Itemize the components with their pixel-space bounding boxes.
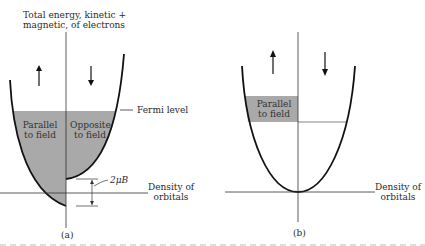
diagram-canvas (0, 0, 425, 246)
y-axis-label-a-line1: Total energy, kinetic + (23, 10, 126, 20)
parallel-label-b-line1: Parallel (255, 99, 293, 109)
opposite-label-a-line2: to field (70, 130, 110, 140)
splitting-label: 2μB (110, 175, 128, 185)
y-axis-label-a-line2: magnetic, of electrons (23, 20, 125, 30)
fermi-level-label: Fermi level (137, 105, 188, 115)
up-arrow-icon-b (270, 50, 276, 74)
parallel-label-a-line2: to field (22, 130, 58, 140)
opposite-label-a-line1: Opposite (70, 120, 110, 130)
down-arrow-icon-a (88, 66, 94, 86)
x-axis-label-a-line2: orbitals (148, 192, 194, 202)
x-axis-label-b-line1: Density of (374, 182, 422, 192)
caption-a: (a) (61, 230, 73, 240)
x-axis-label-b-line2: orbitals (374, 192, 422, 202)
figure-b (225, 32, 375, 222)
x-axis-label-a-line1: Density of (148, 182, 194, 192)
band-curve-b (242, 66, 355, 192)
splitting-indicator-a (76, 179, 108, 206)
caption-b: (b) (293, 228, 306, 238)
parallel-label-b-line2: to field (255, 109, 293, 119)
up-arrow-icon-a (36, 65, 42, 86)
parallel-label-a-line1: Parallel (22, 120, 58, 130)
down-arrow-icon-b (322, 52, 328, 76)
